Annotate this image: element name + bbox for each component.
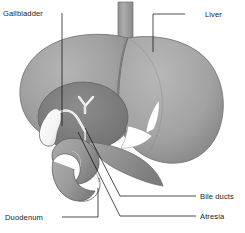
label-gallbladder: Gallbladder — [3, 9, 43, 18]
biliary-atresia-figure: Gallbladder Liver Bile ducts Atresia Duo… — [0, 0, 245, 233]
label-duodenum: Duodenum — [5, 213, 43, 222]
anatomy-illustration: Gallbladder Liver Bile ducts Atresia Duo… — [0, 0, 245, 233]
duodenum — [52, 138, 100, 201]
label-liver: Liver — [205, 10, 222, 19]
label-bile-ducts: Bile ducts — [200, 192, 234, 201]
label-atresia: Atresia — [200, 212, 225, 221]
